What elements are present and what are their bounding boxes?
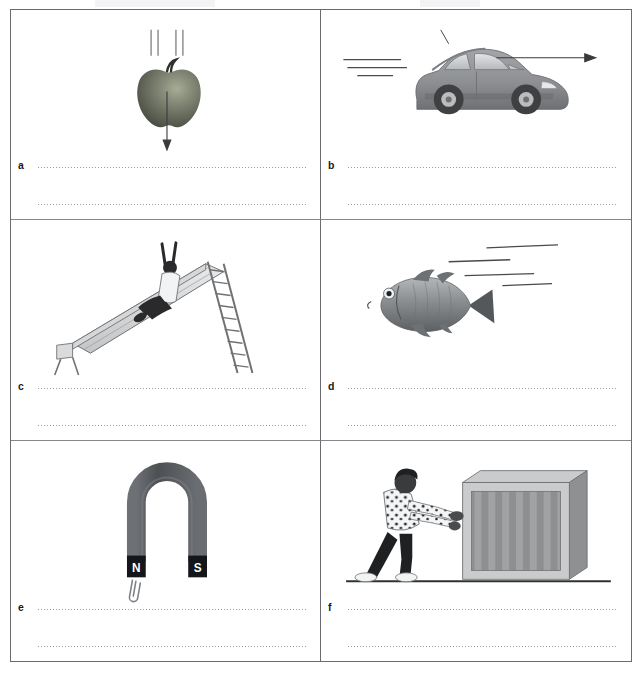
answer-line-d-2[interactable] [347,425,617,426]
answer-line-f-1[interactable] [347,609,617,610]
answer-line-b-2[interactable] [347,204,617,205]
scan-artifact-right [420,0,480,7]
answer-block-b: b [321,157,631,213]
answer-block-c: c [11,378,320,434]
worksheet-cell-b: b [321,10,631,220]
worksheet-cell-f: f [321,441,631,661]
illustration-horseshoe-magnet: N S [11,441,320,603]
cell-label-a: a [18,159,24,171]
answer-line-b-1[interactable] [347,167,617,168]
cell-label-e: e [18,601,24,613]
illustration-child-on-slide [11,220,320,382]
answer-block-d: d [321,378,631,434]
answer-line-e-1[interactable] [37,609,306,610]
answer-line-c-1[interactable] [37,388,306,389]
scan-artifact-left [95,0,215,7]
cell-label-c: c [18,380,24,392]
illustration-falling-apple [11,10,320,161]
magnet-pole-south-label: S [194,561,202,575]
worksheet-table: a [10,9,632,662]
answer-line-a-1[interactable] [37,167,306,168]
cell-label-b: b [328,159,335,171]
worksheet-cell-a: a [11,10,321,220]
answer-line-c-2[interactable] [37,425,306,426]
worksheet-cell-e: N S e [11,441,321,661]
answer-line-e-2[interactable] [37,646,306,647]
worksheet-cell-c: c [11,220,321,441]
cell-label-d: d [328,380,335,392]
cell-label-f: f [328,601,332,613]
answer-line-d-1[interactable] [347,388,617,389]
magnet-pole-north-label: N [132,561,141,575]
answer-line-f-2[interactable] [347,646,617,647]
answer-block-f: f [321,599,631,655]
illustration-person-pushing-box [321,441,631,603]
illustration-swimming-fish [321,220,631,382]
worksheet-cell-d: d [321,220,631,441]
answer-block-a: a [11,157,320,213]
answer-block-e: e [11,599,320,655]
illustration-moving-car [321,10,631,161]
answer-line-a-2[interactable] [37,204,306,205]
